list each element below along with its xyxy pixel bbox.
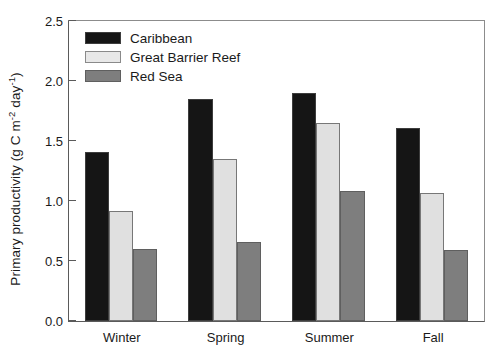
legend-item-caribbean: Caribbean: [85, 29, 240, 47]
legend-item-red-sea: Red Sea: [85, 67, 240, 85]
y-tick-label: 2.5: [45, 14, 63, 29]
bar-spring-red-sea: [237, 242, 261, 321]
x-tick-label: Spring: [207, 330, 245, 345]
chart-figure: Primary productivity (g C m-2 day-1) 0.0…: [0, 0, 503, 358]
legend-item-great-barrier-reef: Great Barrier Reef: [85, 48, 240, 66]
legend-swatch-icon: [85, 32, 121, 44]
plot-area: 0.00.51.01.52.02.5 WinterSpringSummerFal…: [68, 20, 485, 322]
legend: CaribbeanGreat Barrier ReefRed Sea: [85, 29, 240, 86]
y-axis-title-sup2: -1: [5, 77, 16, 86]
legend-label: Caribbean: [130, 31, 192, 46]
y-tick: 2.5: [69, 20, 76, 21]
x-tick-label: Winter: [103, 330, 141, 345]
legend-swatch-icon: [85, 70, 121, 82]
bar-winter-great-barrier-reef: [109, 211, 133, 321]
x-tick-label: Fall: [423, 330, 444, 345]
bar-spring-great-barrier-reef: [213, 159, 237, 321]
y-tick: 1.0: [69, 200, 76, 201]
bar-summer-great-barrier-reef: [316, 123, 340, 321]
y-axis-title-suffix: ): [8, 72, 23, 77]
y-tick: 1.5: [69, 140, 76, 141]
x-tick-label: Summer: [305, 330, 354, 345]
bar-fall-red-sea: [444, 250, 468, 321]
y-axis-title: Primary productivity (g C m-2 day-1): [0, 0, 30, 358]
y-tick: 0.0: [69, 320, 76, 321]
bar-summer-red-sea: [340, 191, 364, 321]
y-tick: 2.0: [69, 80, 76, 81]
y-axis-title-sup1: -2: [5, 112, 16, 121]
y-tick-label: 1.5: [45, 134, 63, 149]
y-tick-label: 0.5: [45, 254, 63, 269]
bar-fall-great-barrier-reef: [420, 193, 444, 321]
y-axis-title-text: Primary productivity (g C m-2 day-1): [8, 72, 23, 285]
legend-label: Red Sea: [130, 69, 183, 84]
bar-winter-caribbean: [85, 152, 109, 321]
y-tick-label: 2.0: [45, 74, 63, 89]
legend-label: Great Barrier Reef: [130, 50, 240, 65]
y-axis-title-mid: day: [8, 86, 23, 112]
y-tick-label: 0.0: [45, 314, 63, 329]
bar-spring-caribbean: [188, 99, 212, 321]
y-axis-title-prefix: Primary productivity (g C m: [8, 120, 23, 285]
y-tick: 0.5: [69, 260, 76, 261]
bar-winter-red-sea: [133, 249, 157, 321]
y-tick-label: 1.0: [45, 194, 63, 209]
legend-swatch-icon: [85, 51, 121, 63]
bar-fall-caribbean: [396, 128, 420, 321]
bar-summer-caribbean: [292, 93, 316, 321]
